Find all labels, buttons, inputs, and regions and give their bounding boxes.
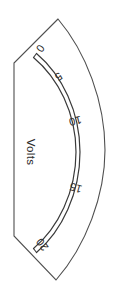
gauge-face: 0 5 10 15 20 Volts (0, 0, 122, 297)
gauge-unit-label: Volts (25, 139, 37, 165)
gauge-drawing: 0 5 10 15 20 Volts (0, 0, 122, 297)
